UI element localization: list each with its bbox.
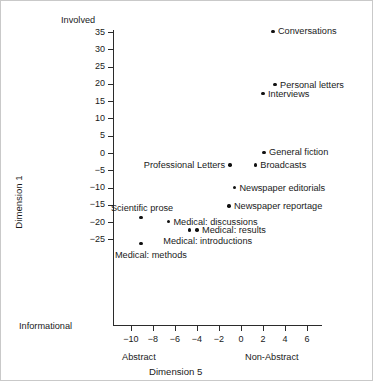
data-point xyxy=(233,186,236,189)
y-axis-tick-label: 0 xyxy=(81,149,105,158)
x-axis-tick-label: −4 xyxy=(185,335,209,344)
y-axis-tick xyxy=(108,49,113,50)
y-axis-tick-label: −20 xyxy=(81,218,105,227)
y-axis-tick xyxy=(108,67,113,68)
x-axis-tick xyxy=(241,326,242,331)
y-axis-tick-label: 15 xyxy=(81,97,105,106)
x-axis-tick xyxy=(197,326,198,331)
data-point xyxy=(273,83,276,86)
y-axis-tick xyxy=(108,239,113,240)
data-point-label: Newspaper reportage xyxy=(234,201,322,211)
data-point-label: Broadcasts xyxy=(260,160,306,170)
y-axis-line xyxy=(113,30,114,326)
x-axis-tick-label: −6 xyxy=(163,335,187,344)
x-axis-tick xyxy=(285,326,286,331)
y-axis-tick xyxy=(108,118,113,119)
data-point xyxy=(139,242,142,245)
x-axis-tick-label: 4 xyxy=(273,335,297,344)
chart-figure: 35302520151050−5−10−15−20−25 −10−8−6−4−2… xyxy=(0,0,373,381)
x-axis-tick xyxy=(219,326,220,331)
data-point-label: Professional Letters xyxy=(1,160,225,170)
y-axis-tick-label: 25 xyxy=(81,62,105,71)
x-axis-tick-label: −2 xyxy=(207,335,231,344)
data-point-label: General fiction xyxy=(269,147,328,157)
data-point-label: Interviews xyxy=(268,89,309,99)
data-point xyxy=(228,163,231,166)
x-axis-tick-label: 2 xyxy=(251,335,275,344)
y-axis-tick xyxy=(108,32,113,33)
y-axis-bottom-label: Informational xyxy=(19,321,72,331)
y-axis-title: Dimension 1 xyxy=(14,160,24,244)
y-axis-tick xyxy=(108,84,113,85)
y-axis-tick-label: 30 xyxy=(81,45,105,54)
y-axis-tick-label: 5 xyxy=(81,131,105,140)
data-point xyxy=(195,228,198,231)
data-point xyxy=(261,92,264,95)
data-point-label: Newspaper editorials xyxy=(239,183,325,193)
y-axis-tick xyxy=(108,101,113,102)
x-axis-tick xyxy=(175,326,176,331)
data-point xyxy=(227,204,230,207)
x-axis-title: Dimension 5 xyxy=(149,367,202,377)
y-axis-tick-label: −25 xyxy=(81,235,105,244)
y-axis-tick xyxy=(108,136,113,137)
data-point-label: Scientific prose xyxy=(111,203,173,213)
x-axis-tick-label: −8 xyxy=(141,335,165,344)
x-axis-tick xyxy=(153,326,154,331)
y-axis-tick xyxy=(108,153,113,154)
y-axis-tick-label: 10 xyxy=(81,114,105,123)
y-axis-tick-label: 20 xyxy=(81,79,105,88)
data-point-label: Medical: methods xyxy=(115,250,187,260)
x-axis-line xyxy=(113,325,322,326)
x-axis-tick xyxy=(263,326,264,331)
data-point xyxy=(139,216,142,219)
data-point xyxy=(188,228,191,231)
y-axis-tick xyxy=(108,222,113,223)
y-axis-top-label: Involved xyxy=(61,15,95,25)
data-point xyxy=(167,220,170,223)
data-point xyxy=(262,151,265,154)
y-axis-tick-label: −15 xyxy=(81,200,105,209)
y-axis-tick xyxy=(108,170,113,171)
x-axis-tick-label: 0 xyxy=(229,335,253,344)
data-point xyxy=(271,30,274,33)
x-axis-tick xyxy=(307,326,308,331)
y-axis-tick-label: −10 xyxy=(81,183,105,192)
x-axis-tick-label: −10 xyxy=(119,335,143,344)
data-point-label: Conversations xyxy=(278,26,337,36)
data-point xyxy=(254,163,257,166)
x-axis-left-label: Abstract xyxy=(122,352,156,362)
data-point-label: Medical: results xyxy=(202,225,266,235)
x-axis-right-label: Non-Abstract xyxy=(245,352,299,362)
x-axis-tick xyxy=(131,326,132,331)
data-point-label: Medical: introductions xyxy=(163,236,252,246)
scatter-plot-area: 35302520151050−5−10−15−20−25 −10−8−6−4−2… xyxy=(1,1,373,381)
y-axis-tick-label: 35 xyxy=(81,28,105,37)
x-axis-tick-label: 6 xyxy=(295,335,319,344)
y-axis-tick xyxy=(108,188,113,189)
